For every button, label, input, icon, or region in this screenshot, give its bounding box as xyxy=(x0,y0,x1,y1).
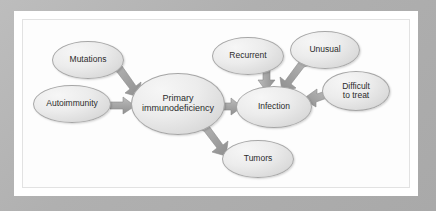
node-mutations[interactable]: Mutations xyxy=(52,41,124,79)
figure-root: Mutations Autoimmunity Primary immunodef… xyxy=(0,0,436,211)
node-unusual[interactable]: Unusual xyxy=(290,31,360,69)
node-primary-label-wrap: Primary immunodeficiency xyxy=(138,94,218,114)
node-tumors-label: Tumors xyxy=(240,154,277,163)
node-difficult-label-wrap: Difficult to treat xyxy=(338,82,374,101)
node-tumors[interactable]: Tumors xyxy=(222,140,294,178)
node-recurrent[interactable]: Recurrent xyxy=(212,37,284,75)
node-primary-label-line2: immunodeficiency xyxy=(138,104,218,114)
node-difficult-label-line2: to treat xyxy=(338,91,374,100)
node-unusual-label: Unusual xyxy=(305,45,344,54)
node-infection-label: Infection xyxy=(254,102,294,111)
node-mutations-label: Mutations xyxy=(66,55,111,64)
diagram-canvas: Mutations Autoimmunity Primary immunodef… xyxy=(0,0,436,211)
node-difficult-to-treat[interactable]: Difficult to treat xyxy=(322,71,390,111)
node-autoimmunity[interactable]: Autoimmunity xyxy=(33,85,111,123)
node-primary-immunodeficiency[interactable]: Primary immunodeficiency xyxy=(131,73,225,135)
node-recurrent-label: Recurrent xyxy=(225,51,270,60)
node-infection[interactable]: Infection xyxy=(236,86,312,128)
node-autoimmunity-label: Autoimmunity xyxy=(42,99,102,108)
